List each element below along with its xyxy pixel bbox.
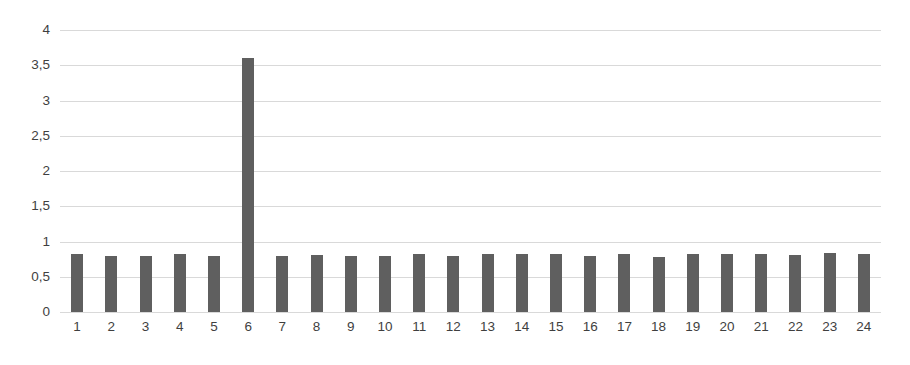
bar-slot: [847, 30, 881, 312]
bar: [447, 256, 459, 312]
bar-slot: [642, 30, 676, 312]
bar: [276, 256, 288, 312]
x-axis-tick-label: 22: [778, 320, 812, 334]
y-axis-tick-label: 1,5: [6, 200, 50, 214]
bar: [721, 254, 733, 312]
bar-slot: [710, 30, 744, 312]
x-axis-tick-label: 20: [710, 320, 744, 334]
bar-slot: [299, 30, 333, 312]
bar-slot: [94, 30, 128, 312]
bar-slot: [539, 30, 573, 312]
bar-slot: [744, 30, 778, 312]
x-axis-tick-label: 2: [94, 320, 128, 334]
x-axis: 123456789101112131415161718192021222324: [60, 320, 881, 344]
bar: [755, 254, 767, 312]
bar-slot: [60, 30, 94, 312]
bar-slot: [813, 30, 847, 312]
bar-slot: [163, 30, 197, 312]
x-axis-tick-label: 3: [128, 320, 162, 334]
bar-slot: [265, 30, 299, 312]
bar-slot: [402, 30, 436, 312]
bar-slot: [573, 30, 607, 312]
x-axis-tick-label: 19: [676, 320, 710, 334]
x-axis-tick-label: 9: [334, 320, 368, 334]
bar-slot: [607, 30, 641, 312]
bar-slot: [471, 30, 505, 312]
bar-slot: [197, 30, 231, 312]
bar: [311, 255, 323, 312]
bar-slot: [778, 30, 812, 312]
x-axis-tick-label: 8: [299, 320, 333, 334]
bar-slot: [436, 30, 470, 312]
bar-slot: [676, 30, 710, 312]
bar: [858, 254, 870, 312]
bar-slot: [368, 30, 402, 312]
x-axis-tick-label: 24: [847, 320, 881, 334]
bar: [653, 257, 665, 312]
x-axis-tick-label: 21: [744, 320, 778, 334]
bar-slot: [128, 30, 162, 312]
bar: [105, 256, 117, 312]
bar: [174, 254, 186, 312]
x-axis-tick-label: 6: [231, 320, 265, 334]
x-axis-tick-label: 7: [265, 320, 299, 334]
bar-slot: [505, 30, 539, 312]
y-axis-tick-label: 4: [6, 23, 50, 37]
y-axis-tick-label: 3,5: [6, 59, 50, 73]
bar-series: [60, 30, 881, 312]
bar: [482, 254, 494, 312]
y-axis-tick-label: 2,5: [6, 129, 50, 143]
bar: [584, 256, 596, 312]
bar: [687, 254, 699, 312]
bar: [379, 256, 391, 312]
y-axis-tick-label: 0: [6, 305, 50, 319]
x-axis-tick-label: 1: [60, 320, 94, 334]
bar: [71, 254, 83, 312]
x-axis-tick-label: 16: [573, 320, 607, 334]
y-axis: 00,511,522,533,54: [0, 30, 50, 312]
bar: [516, 254, 528, 312]
x-axis-tick-label: 5: [197, 320, 231, 334]
bar: [208, 256, 220, 312]
x-axis-tick-label: 13: [471, 320, 505, 334]
y-axis-tick-label: 1: [6, 235, 50, 249]
bar: [789, 255, 801, 312]
bar: [824, 253, 836, 312]
bar: [413, 254, 425, 312]
bar-slot: [231, 30, 265, 312]
x-axis-tick-label: 18: [642, 320, 676, 334]
bar: [618, 254, 630, 312]
bar: [242, 58, 254, 312]
bar: [345, 256, 357, 312]
x-axis-tick-label: 14: [505, 320, 539, 334]
x-axis-tick-label: 12: [436, 320, 470, 334]
x-axis-tick-label: 23: [813, 320, 847, 334]
y-axis-tick-label: 3: [6, 94, 50, 108]
x-axis-tick-label: 11: [402, 320, 436, 334]
bar: [550, 254, 562, 313]
gridline: [60, 312, 881, 313]
bar-chart: 00,511,522,533,54 1234567891011121314151…: [0, 0, 910, 365]
bar-slot: [334, 30, 368, 312]
x-axis-tick-label: 15: [539, 320, 573, 334]
bar: [140, 256, 152, 312]
x-axis-tick-label: 4: [163, 320, 197, 334]
x-axis-tick-label: 17: [607, 320, 641, 334]
x-axis-tick-label: 10: [368, 320, 402, 334]
y-axis-tick-label: 0,5: [6, 270, 50, 284]
y-axis-tick-label: 2: [6, 164, 50, 178]
